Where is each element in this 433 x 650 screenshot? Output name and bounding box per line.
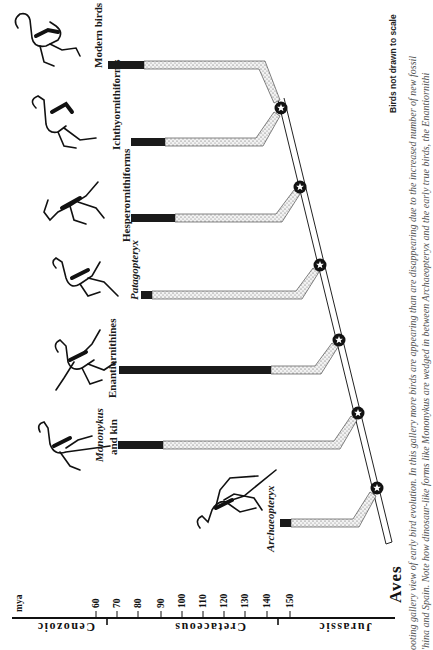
node-star-icon (294, 181, 307, 194)
period-cenozoic: Cenozoic (36, 619, 95, 634)
node-star-icon (371, 482, 384, 495)
fossil-record-segment (118, 441, 163, 449)
hesperornithiform-skeleton-icon (44, 182, 104, 224)
aves-label: Aves (386, 565, 406, 603)
lineage-label-archaeopteryx: Archaeopteryx (264, 485, 276, 552)
lineage-label-ichthyornithiforms: Ichthyornithiforms (110, 60, 122, 150)
figure-caption-line-2: 'hina and Spain. Note how dinosaur-like … (420, 73, 431, 650)
fossil-record-segment (141, 291, 152, 299)
node-star-icon (314, 259, 327, 272)
axis-tick-110: 110 (198, 594, 208, 608)
lineage-bar-enantiornithines (119, 343, 338, 374)
modern-bird-skeleton-icon (15, 14, 80, 66)
patagopteryx-skeleton-icon (53, 258, 118, 296)
fossil-record-segment (131, 214, 175, 222)
scale-note: Birds not drawn to scale (388, 14, 398, 113)
node-star-icon (275, 102, 288, 115)
node-star-icon (333, 334, 346, 347)
axis-tick-120: 120 (219, 594, 229, 608)
ichthyornithiform-skeleton-icon (32, 96, 96, 148)
lineage-bar-mononykus (118, 416, 357, 449)
bird-evolution-diagram (0, 0, 433, 650)
axis-tick-60: 60 (91, 599, 101, 609)
lineage-bar-hesperornithiforms (131, 190, 300, 222)
lineage-label-hesperornithiforms: Hesperornithiforms (120, 149, 132, 242)
lineage-label-enantiornithines: Enantiornithines (106, 319, 118, 398)
aves-stem-line (278, 98, 392, 544)
lineage-label-modern-birds: Modern birds (92, 3, 104, 68)
period-jurassic: Jurassic (318, 619, 372, 634)
lineage-bar-patagopteryx (141, 268, 319, 299)
axis-tick-130: 130 (240, 594, 250, 608)
axis-tick-70: 70 (112, 599, 122, 609)
fossil-record-segment (119, 366, 271, 374)
axis-tick-100: 100 (177, 594, 187, 608)
axis-tick-150: 150 (285, 594, 295, 608)
axis-tick-80: 80 (133, 599, 143, 609)
fossil-record-segment (131, 138, 165, 146)
lineage-label-patagopteryx: Patagopteryx (128, 240, 140, 300)
lineage-bar-ichthyornithiforms (131, 112, 280, 146)
axis-tick-140: 140 (262, 594, 272, 608)
lineage-bar-archaeopteryx (280, 492, 376, 527)
period-cretaceous: Cretaceous (174, 619, 246, 634)
fossil-record-segment (280, 519, 291, 527)
lineage-label-mononykus: Mononykus (93, 408, 105, 462)
axis-unit-label: mya (14, 595, 24, 612)
axis-tick-90: 90 (156, 599, 166, 609)
lineage-bar-modern-birds (108, 61, 280, 103)
figure-caption-line-1: ooting gallery view of early bird evolut… (407, 56, 418, 650)
lineage-label-mononykus-line2: and kin (107, 419, 119, 455)
node-star-icon (352, 407, 365, 420)
